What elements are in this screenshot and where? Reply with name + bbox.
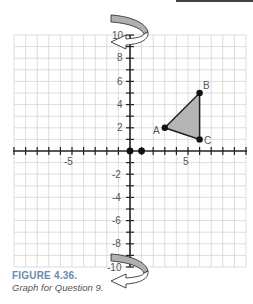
y-tick-label: -10 bbox=[107, 262, 122, 273]
label-c: C bbox=[204, 135, 211, 146]
figure-title: FIGURE 4.36. bbox=[12, 270, 103, 282]
point-one-zero bbox=[138, 148, 145, 155]
point-b bbox=[196, 90, 202, 96]
y-tick-label: -2 bbox=[112, 169, 121, 180]
label-a: A bbox=[153, 125, 160, 136]
x-tick-label: 5 bbox=[183, 156, 189, 167]
y-tick-label: 4 bbox=[117, 99, 123, 110]
point-c bbox=[196, 136, 202, 142]
y-tick-label: -4 bbox=[112, 192, 121, 203]
figure-subtitle: Graph for Question 9. bbox=[12, 282, 103, 294]
label-b: B bbox=[203, 80, 210, 91]
coordinate-graph: -5 5 10 8 6 4 2 -2 -4 -6 -8 -10 A B C bbox=[0, 0, 253, 304]
x-tick-label: -5 bbox=[64, 156, 73, 167]
point-a bbox=[162, 125, 168, 131]
y-tick-label: 6 bbox=[117, 76, 123, 87]
y-tick-label: -8 bbox=[112, 238, 121, 249]
y-tick-label: -6 bbox=[112, 215, 121, 226]
y-tick-label: 8 bbox=[117, 52, 123, 63]
origin-point bbox=[127, 148, 134, 155]
figure-caption: FIGURE 4.36. Graph for Question 9. bbox=[12, 270, 103, 294]
y-tick-label: 2 bbox=[117, 122, 123, 133]
